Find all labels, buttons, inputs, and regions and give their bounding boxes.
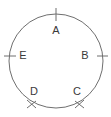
point-label-b: B: [81, 49, 88, 61]
point-label-d: D: [30, 85, 38, 97]
circle-diagram-canvas: A B C D E: [0, 0, 111, 117]
point-label-group: A B C D E: [19, 24, 88, 97]
point-label-e: E: [19, 49, 26, 61]
point-label-c: C: [73, 85, 81, 97]
point-label-a: A: [52, 24, 60, 36]
circle-diagram-figure: A B C D E: [0, 0, 111, 117]
